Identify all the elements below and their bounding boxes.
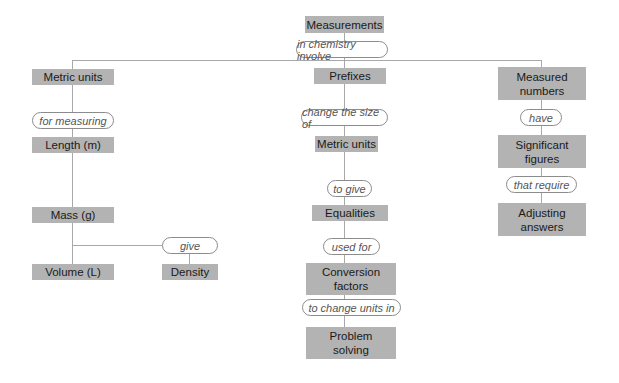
node-metric-units-middle: Metric units: [315, 136, 378, 152]
node-significant-figures: Significant figures: [498, 135, 586, 168]
node-mass: Mass (g): [32, 207, 114, 223]
node-equalities: Equalities: [312, 205, 388, 221]
node-density: Density: [162, 264, 218, 280]
link-that-require: that require: [506, 176, 577, 193]
node-measurements: Measurements: [305, 16, 384, 33]
link-to-change-units-in: to change units in: [302, 299, 401, 316]
node-metric-units-left: Metric units: [32, 69, 114, 85]
node-measured-numbers: Measured numbers: [498, 67, 586, 100]
node-conversion-factors: Conversion factors: [306, 263, 396, 295]
node-problem-solving: Problem solving: [306, 327, 396, 359]
link-used-for: used for: [323, 238, 380, 255]
connector-density-horizontal: [72, 245, 162, 246]
link-for-measuring: for measuring: [32, 112, 114, 129]
link-change-the-size-of: change the size of: [301, 109, 388, 126]
link-have: have: [520, 109, 562, 126]
link-give: give: [162, 237, 218, 254]
node-volume: Volume (L): [32, 264, 114, 280]
node-prefixes: Prefixes: [314, 68, 386, 84]
link-to-give: to give: [327, 180, 372, 197]
node-length: Length (m): [32, 137, 114, 153]
node-adjusting-answers: Adjusting answers: [498, 203, 586, 236]
link-in-chemistry-involve: in chemistry involve: [296, 41, 388, 58]
connector-left-drop: [72, 60, 73, 268]
